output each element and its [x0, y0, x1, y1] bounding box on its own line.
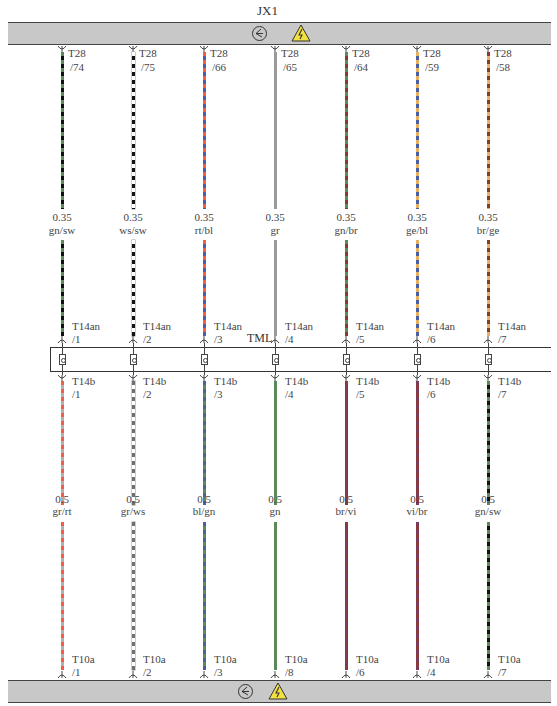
wire-color-code: gn/br — [316, 224, 376, 237]
connector-terminal-icon — [483, 671, 493, 679]
connector-label: T14an — [427, 320, 455, 333]
bridge-symbol-icon — [201, 354, 208, 365]
pin-label: /3 — [214, 333, 223, 346]
connector-label: T28 — [423, 47, 441, 60]
connector-label: T28 — [210, 47, 228, 60]
bottom-bus-bar — [8, 680, 551, 703]
wire-color-code: vi/br — [387, 505, 447, 518]
pin-label: /6 — [356, 666, 365, 679]
pin-label: /7 — [498, 388, 507, 401]
high-voltage-warning-icon — [268, 682, 288, 700]
connector-label: T14b — [143, 375, 166, 388]
wire-segment — [345, 240, 348, 336]
connector-label: T10a — [285, 653, 308, 666]
connector-label: T28 — [281, 47, 299, 60]
pin-label: /2 — [143, 388, 152, 401]
pin-label: /4 — [285, 333, 294, 346]
connector-label: T14an — [498, 320, 526, 333]
wire-segment — [203, 52, 206, 209]
connector-label: T14an — [285, 320, 313, 333]
connector-label: T10a — [214, 653, 237, 666]
wire-segment — [274, 522, 277, 670]
pin-label: /2 — [143, 333, 152, 346]
wire-segment — [61, 52, 64, 209]
wire-segment — [487, 52, 490, 209]
connector-label: T10a — [72, 653, 95, 666]
wire-segment — [274, 52, 277, 209]
wire-segment — [61, 240, 64, 336]
wire-segment — [203, 522, 206, 670]
connector-label: T14an — [143, 320, 171, 333]
wire-size: 0.35 — [458, 211, 518, 224]
bridge-symbol-icon — [485, 354, 492, 365]
connector-terminal-icon — [128, 671, 138, 679]
connector-label: T10a — [143, 653, 166, 666]
connector-label: T28 — [139, 47, 157, 60]
pin-label: /7 — [498, 333, 507, 346]
connector-label: T10a — [356, 653, 379, 666]
wire-color-code: ws/sw — [103, 224, 163, 237]
wire-size: 0.35 — [174, 211, 234, 224]
pin-label: /66 — [212, 61, 226, 74]
ground-symbol-icon — [252, 26, 267, 41]
wire-segment — [203, 381, 206, 505]
wire-segment — [345, 52, 348, 209]
connector-label: T14b — [285, 375, 308, 388]
wire-color-code: gn/sw — [32, 224, 92, 237]
connector-label: T14b — [356, 375, 379, 388]
wire-segment — [345, 381, 348, 505]
pin-label: /1 — [72, 333, 81, 346]
connector-label: T14b — [427, 375, 450, 388]
wire-color-code: gn/sw — [458, 505, 518, 518]
wire-segment — [132, 52, 135, 209]
pin-label: /7 — [498, 666, 507, 679]
wire-segment — [132, 240, 135, 336]
wire-segment — [416, 240, 419, 336]
connector-label: T14b — [498, 375, 521, 388]
wire-size: 0.35 — [245, 211, 305, 224]
wire-color-code: bl/gn — [174, 505, 234, 518]
pin-label: /6 — [427, 388, 436, 401]
connector-terminal-icon — [270, 671, 280, 679]
wire-segment — [345, 522, 348, 670]
connector-label: T10a — [427, 653, 450, 666]
bridge-symbol-icon — [130, 354, 137, 365]
wire-segment — [487, 240, 490, 336]
wire-segment — [274, 240, 277, 336]
tml-connector-block — [50, 347, 551, 372]
pin-label: /58 — [496, 61, 510, 74]
pin-label: /59 — [425, 61, 439, 74]
wire-color-code: gn — [245, 505, 305, 518]
pin-label: /65 — [283, 61, 297, 74]
pin-label: /5 — [356, 333, 365, 346]
pin-label: /3 — [214, 666, 223, 679]
wire-segment — [61, 522, 64, 670]
tml-connector-label: TML — [247, 331, 272, 346]
pin-label: /4 — [427, 666, 436, 679]
connector-terminal-icon — [412, 671, 422, 679]
wire-size: 0.35 — [316, 211, 376, 224]
wire-color-code: gr/ws — [103, 505, 163, 518]
pin-label: /1 — [72, 388, 81, 401]
top-bus-label: JX1 — [257, 3, 278, 19]
pin-label: /4 — [285, 388, 294, 401]
bridge-symbol-icon — [59, 354, 66, 365]
wire-segment — [61, 381, 64, 505]
connector-label: T10a — [498, 653, 521, 666]
wire-size: 0.35 — [103, 211, 163, 224]
wire-segment — [487, 522, 490, 670]
connector-label: T14b — [214, 375, 237, 388]
pin-label: /64 — [354, 61, 368, 74]
bridge-symbol-icon — [272, 354, 279, 365]
pin-label: /8 — [285, 666, 294, 679]
wire-segment — [132, 522, 135, 670]
pin-label: /6 — [427, 333, 436, 346]
connector-terminal-icon — [341, 671, 351, 679]
pin-label: /5 — [356, 388, 365, 401]
wire-color-code: gr/rt — [32, 505, 92, 518]
wire-color-code: ge/bl — [387, 224, 447, 237]
bridge-symbol-icon — [414, 354, 421, 365]
connector-terminal-icon — [57, 671, 67, 679]
wire-color-code: rt/bl — [174, 224, 234, 237]
pin-label: /3 — [214, 388, 223, 401]
